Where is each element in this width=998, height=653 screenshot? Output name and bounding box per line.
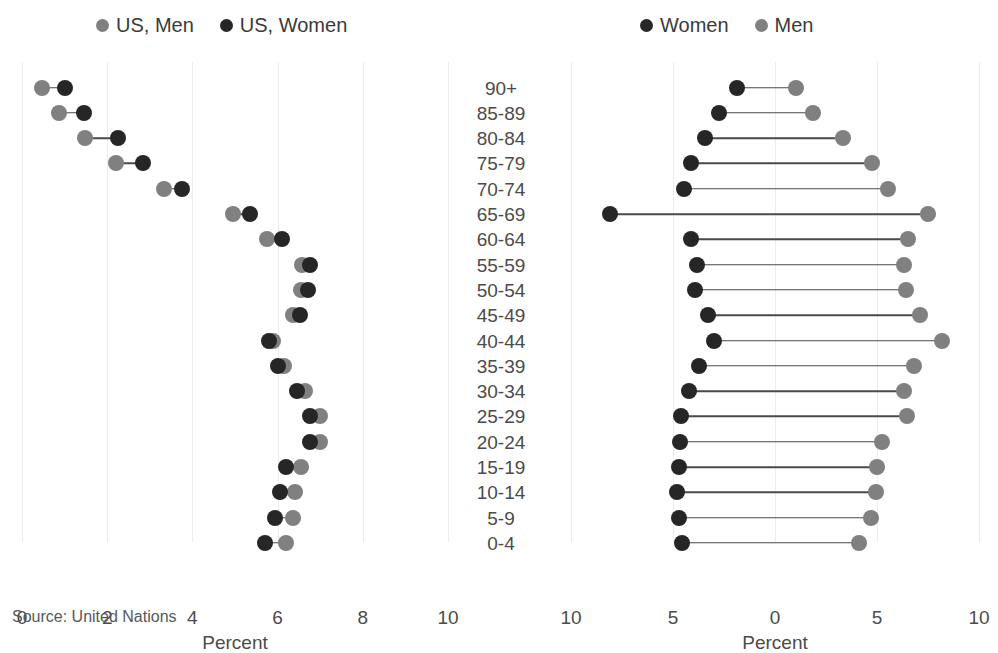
dumbbell-row[interactable] xyxy=(540,75,998,100)
data-point-us-men[interactable] xyxy=(259,231,275,247)
dumbbell-row[interactable] xyxy=(0,404,460,429)
data-point-us-women[interactable] xyxy=(302,434,318,450)
dumbbell-row[interactable] xyxy=(0,530,460,555)
dumbbell-row[interactable] xyxy=(0,100,460,125)
data-point-us-women[interactable] xyxy=(272,484,288,500)
dumbbell-row[interactable] xyxy=(0,353,460,378)
dumbbell-row[interactable] xyxy=(0,126,460,151)
data-point-us-women[interactable] xyxy=(302,408,318,424)
data-point-us-women[interactable] xyxy=(302,257,318,273)
data-point-women[interactable] xyxy=(671,459,687,475)
dumbbell-row[interactable] xyxy=(540,455,998,480)
dumbbell-row[interactable] xyxy=(0,151,460,176)
data-point-women[interactable] xyxy=(669,484,685,500)
data-point-women[interactable] xyxy=(700,307,716,323)
dumbbell-row[interactable] xyxy=(0,252,460,277)
data-point-women[interactable] xyxy=(689,257,705,273)
data-point-us-women[interactable] xyxy=(76,105,92,121)
data-point-women[interactable] xyxy=(683,155,699,171)
data-point-men[interactable] xyxy=(896,383,912,399)
data-point-women[interactable] xyxy=(729,80,745,96)
data-point-us-men[interactable] xyxy=(156,181,172,197)
data-point-men[interactable] xyxy=(835,130,851,146)
dumbbell-row[interactable] xyxy=(540,429,998,454)
dumbbell-row[interactable] xyxy=(0,328,460,353)
dumbbell-row[interactable] xyxy=(0,176,460,201)
data-point-us-men[interactable] xyxy=(293,459,309,475)
dumbbell-row[interactable] xyxy=(540,202,998,227)
data-point-men[interactable] xyxy=(934,333,950,349)
dumbbell-row[interactable] xyxy=(540,505,998,530)
dumbbell-row[interactable] xyxy=(0,429,460,454)
data-point-us-women[interactable] xyxy=(267,510,283,526)
dumbbell-row[interactable] xyxy=(540,151,998,176)
data-point-us-men[interactable] xyxy=(278,535,294,551)
data-point-women[interactable] xyxy=(697,130,713,146)
data-point-us-men[interactable] xyxy=(287,484,303,500)
data-point-men[interactable] xyxy=(900,231,916,247)
dumbbell-row[interactable] xyxy=(540,176,998,201)
dumbbell-row[interactable] xyxy=(540,277,998,302)
data-point-us-women[interactable] xyxy=(135,155,151,171)
dumbbell-row[interactable] xyxy=(0,75,460,100)
dumbbell-row[interactable] xyxy=(540,303,998,328)
dumbbell-row[interactable] xyxy=(540,379,998,404)
data-point-men[interactable] xyxy=(863,510,879,526)
data-point-us-men[interactable] xyxy=(77,130,93,146)
dumbbell-row[interactable] xyxy=(0,379,460,404)
data-point-us-women[interactable] xyxy=(270,358,286,374)
data-point-us-men[interactable] xyxy=(34,80,50,96)
data-point-women[interactable] xyxy=(691,358,707,374)
dumbbell-row[interactable] xyxy=(540,530,998,555)
data-point-women[interactable] xyxy=(687,282,703,298)
data-point-women[interactable] xyxy=(676,181,692,197)
dumbbell-row[interactable] xyxy=(0,202,460,227)
data-point-men[interactable] xyxy=(898,282,914,298)
dumbbell-row[interactable] xyxy=(540,404,998,429)
data-point-men[interactable] xyxy=(868,484,884,500)
dumbbell-row[interactable] xyxy=(0,227,460,252)
dumbbell-row[interactable] xyxy=(540,480,998,505)
data-point-us-women[interactable] xyxy=(300,282,316,298)
data-point-us-women[interactable] xyxy=(274,231,290,247)
data-point-men[interactable] xyxy=(912,307,928,323)
data-point-men[interactable] xyxy=(864,155,880,171)
dumbbell-row[interactable] xyxy=(540,126,998,151)
data-point-women[interactable] xyxy=(681,383,697,399)
data-point-us-women[interactable] xyxy=(261,333,277,349)
dumbbell-row[interactable] xyxy=(540,227,998,252)
data-point-men[interactable] xyxy=(880,181,896,197)
data-point-men[interactable] xyxy=(788,80,804,96)
data-point-men[interactable] xyxy=(869,459,885,475)
data-point-women[interactable] xyxy=(672,434,688,450)
data-point-us-women[interactable] xyxy=(292,307,308,323)
data-point-men[interactable] xyxy=(899,408,915,424)
data-point-men[interactable] xyxy=(896,257,912,273)
data-point-us-men[interactable] xyxy=(285,510,301,526)
data-point-us-men[interactable] xyxy=(51,105,67,121)
data-point-men[interactable] xyxy=(874,434,890,450)
dumbbell-row[interactable] xyxy=(540,353,998,378)
data-point-us-women[interactable] xyxy=(57,80,73,96)
dumbbell-row[interactable] xyxy=(0,455,460,480)
data-point-women[interactable] xyxy=(602,206,618,222)
data-point-women[interactable] xyxy=(706,333,722,349)
data-point-men[interactable] xyxy=(805,105,821,121)
data-point-women[interactable] xyxy=(671,510,687,526)
data-point-men[interactable] xyxy=(920,206,936,222)
data-point-us-women[interactable] xyxy=(242,206,258,222)
dumbbell-row[interactable] xyxy=(0,480,460,505)
data-point-us-men[interactable] xyxy=(225,206,241,222)
data-point-us-men[interactable] xyxy=(108,155,124,171)
dumbbell-row[interactable] xyxy=(0,303,460,328)
dumbbell-row[interactable] xyxy=(0,277,460,302)
data-point-us-women[interactable] xyxy=(257,535,273,551)
data-point-men[interactable] xyxy=(851,535,867,551)
data-point-women[interactable] xyxy=(711,105,727,121)
dumbbell-row[interactable] xyxy=(540,252,998,277)
data-point-women[interactable] xyxy=(673,408,689,424)
data-point-us-women[interactable] xyxy=(110,130,126,146)
data-point-us-women[interactable] xyxy=(289,383,305,399)
data-point-women[interactable] xyxy=(683,231,699,247)
dumbbell-row[interactable] xyxy=(540,100,998,125)
